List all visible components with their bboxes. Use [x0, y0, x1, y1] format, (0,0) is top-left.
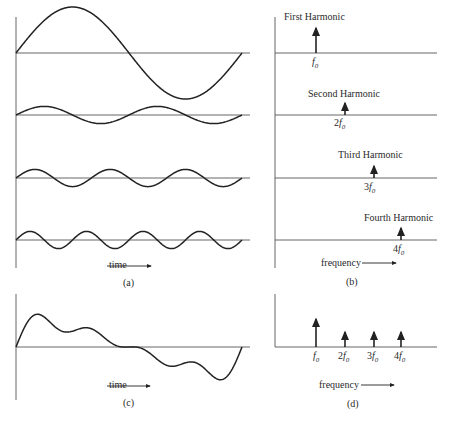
- panel-c-caption: (c): [123, 397, 134, 408]
- d-3f0-label: 3f0: [367, 350, 378, 364]
- 3f0-label: 3f0: [364, 181, 375, 195]
- d-2f0-label: 2f0: [338, 350, 349, 364]
- 3f0-subscript: 0: [372, 187, 376, 195]
- panel-d-caption: (d): [347, 398, 359, 409]
- f0-subscript: 0: [315, 62, 319, 70]
- second-harmonic-title: Second Harmonic: [308, 88, 380, 99]
- first-harmonic-title: First Harmonic: [284, 11, 345, 22]
- d-3f0-subscript: 0: [375, 356, 379, 364]
- panel-b-caption: (b): [346, 276, 358, 287]
- 4f0-label: 4f0: [393, 243, 404, 257]
- harmonics-figure: [0, 0, 451, 422]
- d-4f0-label: 4f0: [394, 350, 405, 364]
- 4f0-subscript: 0: [401, 249, 405, 257]
- f0-label: f0: [312, 56, 318, 70]
- d-4f0-subscript: 0: [402, 356, 406, 364]
- fourth-harmonic-title: Fourth Harmonic: [364, 212, 433, 223]
- d-f0-label: f0: [313, 350, 319, 364]
- d-f0-subscript: 0: [316, 356, 320, 364]
- panel-d-frequency-label: frequency: [319, 379, 359, 390]
- 2f0-label: 2f0: [334, 117, 345, 131]
- 2f0-subscript: 0: [342, 123, 346, 131]
- third-harmonic-title: Third Harmonic: [338, 149, 403, 160]
- panel-a-caption: (a): [123, 277, 134, 288]
- panel-b-frequency-label: frequency: [321, 257, 361, 268]
- panel-a-time-label: time: [109, 259, 127, 270]
- panel-c-time-label: time: [109, 379, 127, 390]
- d-2f0-subscript: 0: [346, 356, 350, 364]
